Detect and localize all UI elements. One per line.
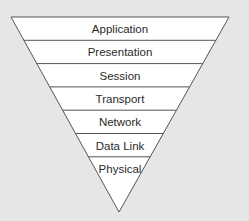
layer-label-network: Network (99, 116, 141, 128)
layer-label-presentation: Presentation (88, 46, 153, 58)
osi-triangle-diagram: Application Presentation Session Transpo… (0, 0, 249, 221)
layer-label-transport: Transport (96, 93, 146, 105)
layer-label-data-link: Data Link (96, 140, 145, 152)
layer-label-physical: Physical (99, 163, 142, 175)
layer-label-session: Session (100, 70, 141, 82)
layer-label-application: Application (92, 23, 148, 35)
